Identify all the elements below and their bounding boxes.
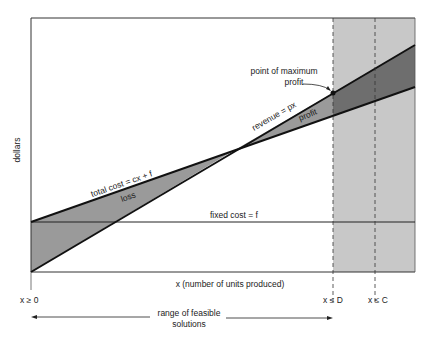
max-profit-point (331, 91, 336, 96)
y-axis-label: dollars (12, 137, 22, 162)
constraint-c-label: x ≤ C (368, 295, 388, 305)
max-profit-arrow (303, 84, 330, 90)
max-profit-label-2: profit (285, 77, 305, 87)
max-profit-label-1: point of maximum (250, 66, 317, 76)
x-axis-label: x (number of units produced) (176, 279, 285, 289)
profit-diagram: dollars x (number of units produced) tot… (0, 0, 426, 338)
fixed-cost-label: fixed cost = f (210, 210, 259, 220)
range-label-1: range of feasible (158, 308, 221, 318)
constraint-d-label: x ≤ D (323, 295, 343, 305)
constraint-lower-label: x ≥ 0 (20, 295, 39, 305)
range-label-2: solutions (172, 319, 206, 329)
